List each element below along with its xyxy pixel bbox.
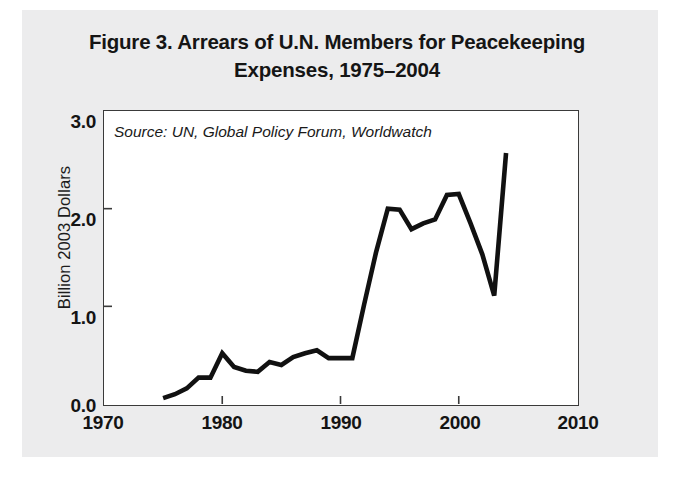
y-axis-tick-marks xyxy=(104,209,112,307)
source-annotation: Source: UN, Global Policy Forum, Worldwa… xyxy=(114,123,432,141)
data-line-chart xyxy=(104,111,577,404)
y-axis-tick-label-3: 3.0 xyxy=(44,111,96,133)
x-axis-tick-label-2000: 2000 xyxy=(420,412,500,434)
x-axis-tick-label-1970: 1970 xyxy=(63,412,143,434)
x-axis-tick-marks xyxy=(222,396,459,404)
x-axis-tick-label-2010: 2010 xyxy=(538,412,618,434)
chart-container: Billion 2003 Dollars 3.0 2.0 1.0 0.0 197… xyxy=(22,10,658,457)
x-axis-tick-label-1990: 1990 xyxy=(301,412,381,434)
figure-page: Figure 3. Arrears of U.N. Members for Pe… xyxy=(22,10,658,457)
y-axis-tick-label-2: 2.0 xyxy=(44,209,96,231)
y-axis-tick-label-1: 1.0 xyxy=(44,307,96,329)
x-axis-tick-label-1980: 1980 xyxy=(182,412,262,434)
plot-area xyxy=(103,110,579,406)
data-series-line xyxy=(163,153,506,398)
